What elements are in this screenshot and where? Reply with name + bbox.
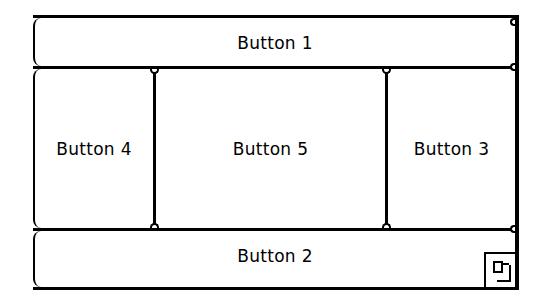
splitter-joint-bottom-right	[382, 223, 391, 228]
button-5-label: Button 5	[233, 139, 309, 159]
button-2-label: Button 2	[237, 246, 313, 266]
button-4[interactable]: Button 4	[33, 69, 153, 228]
splitter-joint-bottom-left	[150, 223, 159, 228]
button-1-label: Button 1	[237, 33, 313, 53]
edge-notch-upper-right	[510, 63, 515, 71]
button-1[interactable]: Button 1	[33, 18, 515, 66]
split-pane-window: Button 1 Button 4 Button 5 Button 3 Butt…	[33, 15, 519, 290]
button-3-label: Button 3	[414, 139, 490, 159]
edge-notch-lower-right	[510, 225, 515, 233]
button-4-label: Button 4	[56, 139, 132, 159]
resize-grip-icon[interactable]	[484, 252, 515, 287]
button-5[interactable]: Button 5	[156, 69, 385, 228]
button-2[interactable]: Button 2	[33, 231, 515, 287]
resize-grip-large-square	[497, 265, 511, 282]
edge-notch-top-right	[510, 18, 515, 26]
button-3[interactable]: Button 3	[388, 69, 515, 228]
